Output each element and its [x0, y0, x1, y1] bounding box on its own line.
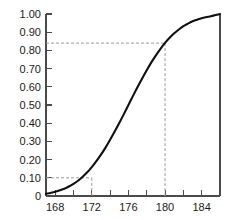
x-axis-ticks: 168172176180184: [46, 190, 220, 213]
y-tick-label: 0.80: [20, 44, 41, 56]
cdf-chart: 00.100.200.300.400.500.600.700.800.901.0…: [0, 0, 230, 220]
reference-lines: [46, 43, 165, 196]
x-tick-label: 180: [156, 201, 174, 213]
y-tick-label: 0.50: [20, 99, 41, 111]
x-tick-label: 176: [119, 201, 137, 213]
y-tick-label: 0.60: [20, 81, 41, 93]
x-tick-label: 168: [46, 201, 64, 213]
y-axis-ticks: 00.100.200.300.400.500.600.700.800.901.0…: [20, 8, 52, 202]
y-tick-label: 1.00: [20, 8, 41, 20]
data-series: [46, 14, 220, 194]
y-tick-label: 0.90: [20, 26, 41, 38]
cdf-curve: [46, 14, 220, 194]
chart-canvas: 00.100.200.300.400.500.600.700.800.901.0…: [0, 0, 230, 220]
y-tick-label: 0.40: [20, 117, 41, 129]
y-tick-label: 0.30: [20, 135, 41, 147]
y-tick-label: 0: [35, 190, 41, 202]
axis-frame: [46, 14, 220, 196]
y-tick-label: 0.70: [20, 63, 41, 75]
x-tick-label: 172: [83, 201, 101, 213]
x-tick-label: 184: [193, 201, 211, 213]
y-tick-label: 0.20: [20, 154, 41, 166]
y-tick-label: 0.10: [20, 172, 41, 184]
